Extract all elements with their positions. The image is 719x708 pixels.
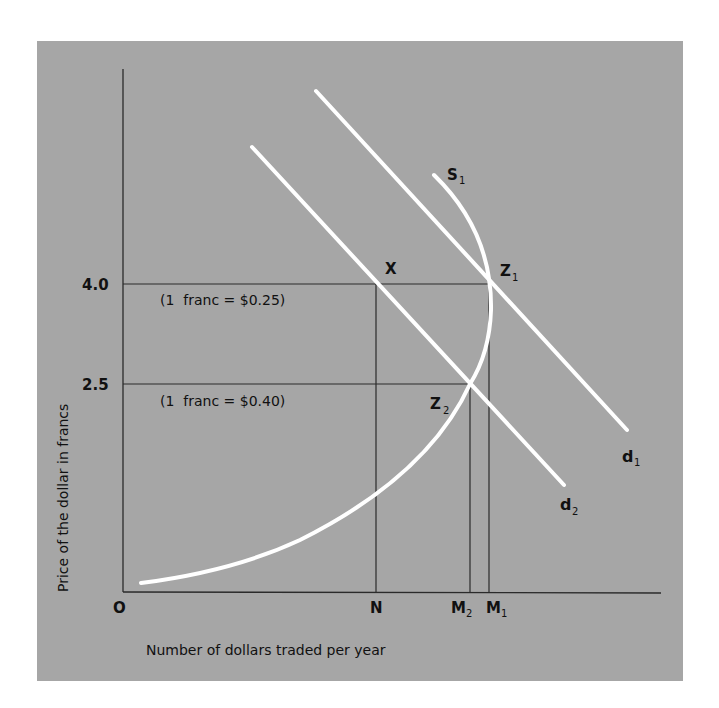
- svg-text:d: d: [560, 495, 571, 514]
- y-tick-2-5: 2.5: [82, 376, 109, 394]
- supply-curve-s1: [141, 175, 491, 583]
- y-axis-label: Price of the dollar in francs: [55, 404, 71, 592]
- chart-svg: 4.0 2.5 (1 franc = $0.25) (1 franc = $0.…: [0, 0, 719, 708]
- annotation-rate-025: (1 franc = $0.25): [160, 292, 285, 308]
- svg-text:1: 1: [634, 457, 640, 468]
- svg-text:M: M: [451, 599, 466, 617]
- point-label-z1: Z 1: [500, 262, 518, 283]
- svg-text:Z: Z: [500, 262, 511, 280]
- svg-text:Z: Z: [430, 395, 441, 413]
- x-tick-m2: M 2: [451, 599, 472, 619]
- svg-text:1: 1: [459, 175, 465, 186]
- curve-label-s1: S 1: [447, 166, 465, 186]
- y-tick-4-0: 4.0: [82, 276, 109, 294]
- point-label-x: X: [385, 260, 397, 278]
- svg-text:1: 1: [501, 608, 507, 619]
- curve-label-d2: d 2: [560, 495, 578, 517]
- svg-text:M: M: [486, 599, 501, 617]
- svg-text:2: 2: [443, 405, 449, 416]
- svg-text:2: 2: [572, 506, 578, 517]
- x-axis: [123, 592, 661, 593]
- svg-text:S: S: [447, 166, 458, 184]
- svg-text:1: 1: [512, 272, 518, 283]
- svg-text:2: 2: [466, 608, 472, 619]
- svg-text:d: d: [622, 447, 633, 466]
- x-tick-n: N: [370, 599, 383, 617]
- x-tick-origin: O: [113, 599, 126, 617]
- point-label-z2: Z 2: [430, 395, 449, 416]
- annotation-rate-040: (1 franc = $0.40): [160, 393, 285, 409]
- curve-label-d1: d 1: [622, 447, 640, 468]
- x-axis-label: Number of dollars traded per year: [146, 642, 386, 658]
- demand-curve-d2: [252, 147, 564, 485]
- x-tick-m1: M 1: [486, 599, 507, 619]
